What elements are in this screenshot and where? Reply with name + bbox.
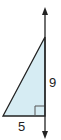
diagram-canvas: 9 5	[0, 0, 61, 140]
arrow-down-icon	[42, 131, 48, 139]
arrow-up-icon	[42, 7, 48, 15]
vertical-leg-label: 9	[49, 75, 56, 90]
triangle-diagram: 9 5	[0, 0, 61, 140]
horizontal-leg-label: 5	[18, 119, 25, 134]
right-triangle	[3, 37, 45, 116]
